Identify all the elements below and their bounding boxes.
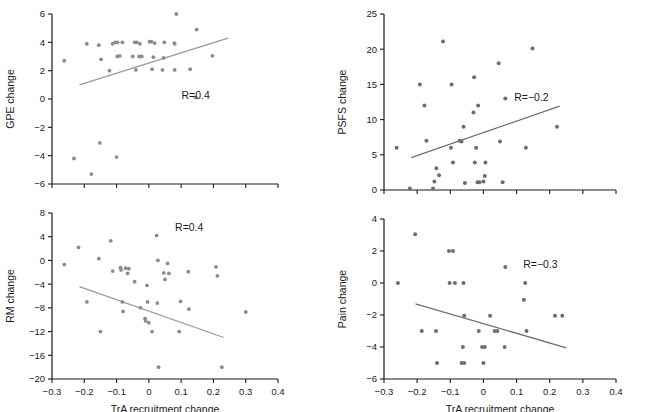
x-tick-label: −0.2 — [75, 386, 94, 397]
x-tick-label: 0.3 — [239, 386, 252, 397]
data-point — [85, 300, 89, 304]
data-point — [501, 180, 505, 184]
y-tick-label: 20 — [366, 44, 377, 55]
data-point — [424, 139, 428, 143]
y-tick-label: −4 — [366, 341, 377, 352]
data-point — [89, 172, 93, 176]
data-point — [495, 329, 499, 333]
data-point — [214, 265, 218, 269]
data-point — [155, 234, 159, 238]
panel-gpe: −6−4−20246GPE changeR=0.4 — [0, 0, 330, 205]
panel-pain: −6−4−2024−0.3−0.2−0.100.10.20.30.4Pain c… — [332, 205, 660, 412]
data-point — [116, 40, 120, 44]
data-point — [555, 125, 559, 129]
y-tick-label: 4 — [40, 37, 45, 48]
data-point — [126, 272, 130, 276]
y-tick-label: −6 — [366, 373, 377, 384]
data-point — [434, 329, 438, 333]
y-tick-label: −20 — [29, 373, 45, 384]
plot-rm: −20−16−12−8−4048−0.3−0.2−0.100.10.20.30.… — [0, 205, 330, 412]
data-point — [99, 57, 103, 61]
data-point — [396, 281, 400, 285]
y-tick-label: −16 — [29, 350, 45, 361]
y-tick-label: −6 — [34, 178, 45, 189]
data-point — [435, 361, 439, 365]
y-tick-label: 10 — [366, 114, 377, 125]
data-point — [413, 232, 417, 236]
data-point — [121, 310, 125, 314]
data-point — [488, 314, 492, 318]
data-point — [177, 330, 181, 334]
panel-rm: −20−16−12−8−4048−0.3−0.2−0.100.10.20.30.… — [0, 205, 330, 412]
data-point — [153, 41, 157, 45]
data-point — [498, 139, 502, 143]
data-point — [174, 12, 178, 16]
y-tick-label: 4 — [372, 213, 377, 224]
data-point — [432, 180, 436, 184]
data-point — [62, 263, 66, 267]
y-tick-label: −4 — [34, 150, 45, 161]
data-point — [111, 269, 115, 273]
data-point — [139, 306, 143, 310]
y-axis-title: PSFS change — [336, 69, 348, 134]
data-point — [530, 46, 534, 50]
data-point — [186, 270, 190, 274]
data-point — [85, 42, 89, 46]
data-point — [108, 69, 112, 73]
y-axis-title: RM change — [4, 269, 16, 323]
x-tick-label: −0.3 — [43, 386, 62, 397]
data-point — [188, 67, 192, 71]
y-tick-label: −2 — [34, 122, 45, 133]
data-point — [150, 330, 154, 334]
y-tick-label: 0 — [372, 184, 377, 195]
data-point — [481, 180, 485, 184]
y-tick-label: 25 — [366, 8, 377, 19]
trend-line — [79, 38, 228, 85]
data-point — [77, 245, 81, 249]
plot-gpe: −6−4−20246GPE changeR=0.4 — [0, 0, 330, 205]
data-point — [474, 146, 478, 150]
data-point — [462, 314, 466, 318]
data-point — [161, 68, 165, 72]
data-point — [460, 139, 464, 143]
data-point — [420, 329, 424, 333]
data-point — [483, 161, 487, 165]
data-point — [451, 161, 455, 165]
plot-pain: −6−4−2024−0.3−0.2−0.100.10.20.30.4Pain c… — [332, 205, 660, 412]
data-point — [134, 68, 138, 72]
data-point — [408, 187, 412, 191]
data-point — [162, 40, 166, 44]
y-tick-label: −2 — [366, 309, 377, 320]
data-point — [97, 257, 101, 261]
data-point — [195, 28, 199, 32]
x-tick-label: −0.1 — [441, 386, 460, 397]
x-tick-label: 0 — [146, 386, 151, 397]
y-axis-title: GPE change — [4, 69, 16, 129]
scatter-figure: −6−4−20246GPE changeR=0.4 0510152025PSFS… — [0, 0, 660, 412]
x-tick-label: 0.1 — [175, 386, 188, 397]
y-tick-label: 0 — [40, 255, 45, 266]
x-tick-label: 0.2 — [543, 386, 556, 397]
data-point — [167, 272, 171, 276]
y-tick-label: −4 — [34, 279, 45, 290]
data-point — [163, 278, 167, 282]
y-tick-label: 6 — [40, 8, 45, 19]
data-point — [483, 345, 487, 349]
data-point — [477, 180, 481, 184]
data-point — [497, 61, 501, 65]
data-point — [451, 249, 455, 253]
data-point — [127, 267, 131, 271]
panel-psfs: 0510152025PSFS changeR=−0.2 — [332, 0, 660, 205]
correlation-annotation: R=0.4 — [182, 89, 210, 101]
data-point — [173, 42, 177, 46]
data-point — [146, 300, 150, 304]
data-point — [473, 161, 477, 165]
data-point — [422, 104, 426, 108]
y-tick-label: 2 — [40, 65, 45, 76]
x-tick-label: −0.3 — [375, 386, 394, 397]
y-tick-label: −8 — [34, 302, 45, 313]
data-point — [477, 329, 481, 333]
data-point — [133, 280, 137, 284]
data-point — [162, 271, 166, 275]
data-point — [481, 361, 485, 365]
